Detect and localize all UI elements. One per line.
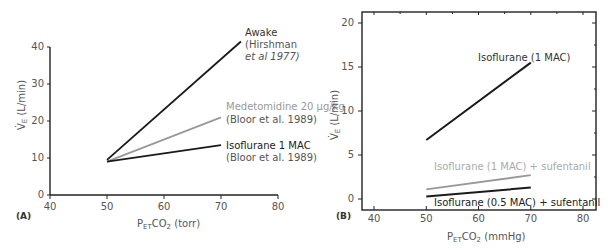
chart-a-series-isoflurane — [107, 145, 221, 162]
chart-a-ytick: 0 — [38, 189, 44, 200]
svg-text:Isoflurane 1 MAC: Isoflurane 1 MAC — [226, 140, 311, 151]
chart-b-xtick: 80 — [577, 213, 590, 224]
chart-a-ytick: 40 — [31, 41, 44, 52]
chart-a-label-isoflurane: Isoflurane 1 MAC (Bloor et al. 1989) — [226, 140, 317, 163]
chart-a-ytick: 20 — [31, 115, 44, 126]
svg-text:Awake: Awake — [245, 27, 277, 38]
chart-a-xtick: 80 — [272, 201, 285, 212]
chart-b-label-isoflurane-1mac-sufentanil: Isoflurane (1 MAC) + sufentanil — [434, 161, 591, 172]
chart-b-ytick: 5 — [348, 149, 354, 160]
svg-text:(Bloor et al. 1989): (Bloor et al. 1989) — [226, 152, 317, 163]
chart-b-x-axis-title: PETCO2 (mmHg) — [447, 231, 525, 244]
chart-b-x-ticks — [374, 12, 583, 210]
chart-b-ytick: 10 — [341, 105, 354, 116]
chart-a-ytick: 10 — [31, 152, 44, 163]
chart-b-ytick: 0 — [348, 193, 354, 204]
chart-a-series-medetomidine — [107, 117, 221, 161]
svg-text:Medetomidine 20 µg/kg: Medetomidine 20 µg/kg — [226, 101, 345, 112]
chart-a: 0 10 20 30 40 40 50 60 70 80 PETCO2 (tor… — [15, 27, 345, 231]
chart-b-ytick: 20 — [341, 17, 354, 28]
chart-a-series-awake — [107, 42, 241, 160]
chart-b-label-isoflurane-1mac: Isoflurane (1 MAC) — [478, 52, 571, 63]
chart-b-x-tick-labels: 40 50 60 70 80 — [368, 213, 590, 224]
chart-b-ytick: 15 — [341, 61, 354, 72]
figure-canvas: 0 10 20 30 40 40 50 60 70 80 PETCO2 (tor… — [0, 0, 611, 251]
chart-b-panel-label: (B) — [336, 211, 351, 221]
chart-a-y-axis-title: V̇E (L/min) — [15, 80, 29, 130]
chart-a-xtick: 50 — [101, 201, 114, 212]
chart-b-y-axis-title: V̇E (L/min) — [328, 90, 342, 140]
chart-b-label-isoflurane-05mac-sufentanil: Isoflurane (0.5 MAC) + sufentanil — [434, 197, 600, 208]
chart-b-frame — [362, 12, 596, 210]
chart-a-y-tick-labels: 0 10 20 30 40 — [31, 41, 44, 200]
chart-b-y-ticks — [358, 23, 596, 199]
chart-b-series-isoflurane-1mac-sufentanil — [426, 175, 531, 189]
chart-b-series-isoflurane-1mac — [426, 63, 531, 140]
chart-a-label-medetomidine: Medetomidine 20 µg/kg (Bloor et al. 1989… — [226, 101, 345, 125]
svg-text:(Hirshman: (Hirshman — [245, 39, 297, 50]
chart-a-xtick: 60 — [158, 201, 171, 212]
svg-text:(Bloor et al. 1989): (Bloor et al. 1989) — [226, 114, 317, 125]
chart-b-xtick: 50 — [420, 213, 433, 224]
chart-a-x-axis-title: PETCO2 (torr) — [137, 218, 200, 231]
chart-b-series-isoflurane-05mac-sufentanil — [426, 188, 531, 197]
chart-b-xtick: 40 — [368, 213, 381, 224]
svg-text:et al 1977): et al 1977) — [245, 51, 300, 62]
chart-a-xtick: 70 — [215, 201, 228, 212]
chart-a-panel-label: (A) — [16, 211, 31, 221]
chart-a-ytick: 30 — [31, 78, 44, 89]
chart-b-xtick: 60 — [472, 213, 485, 224]
chart-b: 0 5 10 15 20 40 50 6 — [328, 12, 600, 244]
chart-a-x-tick-labels: 40 50 60 70 80 — [44, 201, 285, 212]
chart-b-y-tick-labels: 0 5 10 15 20 — [341, 17, 354, 204]
chart-a-xtick: 40 — [44, 201, 57, 212]
chart-b-xtick: 70 — [524, 213, 537, 224]
chart-a-label-awake: Awake (Hirshman et al 1977) — [245, 27, 300, 62]
